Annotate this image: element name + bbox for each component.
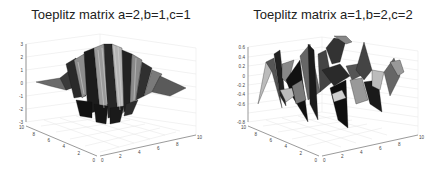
- left-z-tick: -1: [19, 94, 24, 99]
- left-x-tick: 6: [157, 146, 160, 151]
- right-z-tick: 0.6: [239, 45, 246, 50]
- right-surface-plot: Toeplitz matrix a=1,b=2,c=2: [222, 0, 444, 177]
- right-plot-axes: 0.6 0.4 0.2 0 -0.2 -0.4 -0.6 -0.8 10 8 6…: [222, 0, 444, 177]
- right-y-tick: 2: [299, 151, 302, 156]
- left-x-tick: 2: [119, 154, 122, 159]
- right-z-tick: 0.2: [239, 64, 246, 69]
- left-y-tick: 8: [32, 132, 35, 137]
- left-y-tick: 6: [47, 138, 50, 143]
- right-y-tick: 0: [314, 158, 317, 163]
- right-z-tick: 0: [242, 74, 245, 79]
- left-y-tick: 0: [92, 158, 95, 163]
- right-z-tick: -0.4: [237, 92, 245, 97]
- left-y-tick: 4: [62, 144, 65, 149]
- right-z-tick: 0.4: [239, 55, 246, 60]
- left-x-tick: 4: [138, 150, 141, 155]
- right-y-tick: 6: [269, 138, 272, 143]
- right-x-tick: 6: [379, 146, 382, 151]
- left-surface: [36, 44, 186, 124]
- right-x-tick: 0: [323, 158, 326, 163]
- right-x-tick: 2: [341, 154, 344, 159]
- right-z-tick: -0.2: [237, 83, 245, 88]
- left-x-tick: 0: [101, 158, 104, 163]
- right-x-tick: 4: [360, 150, 363, 155]
- right-x-tick: 8: [398, 142, 401, 147]
- right-z-tick: -0.6: [237, 102, 245, 107]
- left-x-tick: 10: [197, 135, 203, 140]
- left-z-tick: 2: [20, 55, 23, 60]
- left-plot-axes: 3 2 1 0 -1 -2 -3 10 8 6 4 2 0 0 2 4 6 8 …: [0, 0, 222, 177]
- left-surface-plot: Toeplitz matrix a=2,b=1,c=1: [0, 0, 222, 177]
- left-z-tick: 1: [20, 68, 23, 73]
- right-x-tick: 10: [419, 135, 425, 140]
- right-y-tick: 8: [254, 132, 257, 137]
- left-z-tick: 0: [20, 81, 23, 86]
- left-y-tick: 10: [19, 125, 25, 130]
- left-y-tick: 2: [77, 151, 80, 156]
- right-y-tick: 4: [284, 144, 287, 149]
- right-surface: [258, 36, 404, 128]
- left-z-tick: 3: [20, 42, 23, 47]
- right-y-tick: 10: [241, 125, 247, 130]
- left-z-tick: -2: [19, 107, 24, 112]
- left-x-tick: 8: [176, 142, 179, 147]
